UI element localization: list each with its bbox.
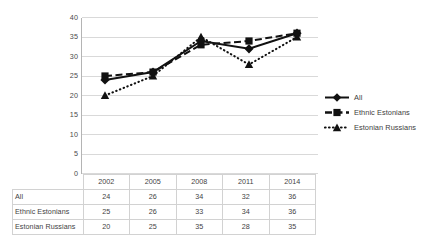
table-row: All 24 26 34 32 36	[13, 190, 316, 205]
table-cell-ethnic-estonians-2008: 33	[176, 205, 223, 220]
table-cell-estonian-russians-2002: 20	[83, 220, 130, 235]
chart-legend: All Ethnic Estonians Estonian Russians	[324, 90, 430, 135]
solid-diamond-key	[324, 91, 350, 104]
table-row-label-all: All	[13, 190, 84, 205]
table-cell-all-2011: 32	[223, 190, 270, 205]
table-col-header-2002: 2002	[83, 175, 130, 190]
table-col-header-2005: 2005	[130, 175, 177, 190]
legend-label-ethnic-estonians: Ethnic Estonians	[354, 108, 410, 117]
legend-item-ethnic-estonians[interactable]: Ethnic Estonians	[324, 105, 430, 120]
table-col-header-2014: 2014	[269, 175, 316, 190]
table-cell-estonian-russians-2014: 35	[269, 220, 316, 235]
table-cell-estonian-russians-2005: 25	[130, 220, 177, 235]
table-header-row: 2002 2005 2008 2011 2014	[13, 175, 316, 190]
table-cell-ethnic-estonians-2002: 25	[83, 205, 130, 220]
table-row-label-ethnic-estonians: Ethnic Estonians	[13, 205, 84, 220]
legend-label-all: All	[354, 93, 362, 102]
table-col-header-2011: 2011	[223, 175, 270, 190]
table-cell-all-2008: 34	[176, 190, 223, 205]
table-cell-all-2014: 36	[269, 190, 316, 205]
chart-figure: 40 35 30 25 20 15 10 5 0	[0, 0, 432, 241]
legend-item-all[interactable]: All	[324, 90, 430, 105]
legend-label-estonian-russians: Estonian Russians	[354, 123, 416, 132]
table-row: Ethnic Estonians 25 26 33 34 36	[13, 205, 316, 220]
table-row-label-estonian-russians: Estonian Russians	[13, 220, 84, 235]
table-cell-all-2005: 26	[130, 190, 177, 205]
table-corner-cell	[13, 175, 84, 190]
dashed-square-key	[324, 106, 350, 119]
table-col-header-2008: 2008	[176, 175, 223, 190]
legend-item-estonian-russians[interactable]: Estonian Russians	[324, 120, 430, 135]
table-cell-estonian-russians-2011: 28	[223, 220, 270, 235]
table-cell-ethnic-estonians-2014: 36	[269, 205, 316, 220]
table-row: Estonian Russians 20 25 35 28 35	[13, 220, 316, 235]
table-cell-ethnic-estonians-2005: 26	[130, 205, 177, 220]
table-cell-ethnic-estonians-2011: 34	[223, 205, 270, 220]
table-cell-estonian-russians-2008: 35	[176, 220, 223, 235]
table-cell-all-2002: 24	[83, 190, 130, 205]
data-table: 2002 2005 2008 2011 2014 All 24 26 34 32…	[12, 174, 316, 235]
dotted-triangle-key	[324, 121, 350, 134]
